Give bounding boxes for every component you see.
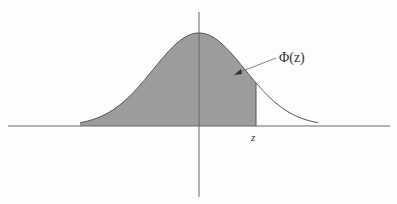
shaded-area-phi-z [80,33,256,126]
z-axis-label: z [250,131,256,143]
diagram-canvas: Φ(z) z [0,0,397,204]
normal-distribution-figure: Φ(z) z [0,0,397,204]
area-label: Φ(z) [279,50,305,66]
pointer-line [240,58,276,72]
